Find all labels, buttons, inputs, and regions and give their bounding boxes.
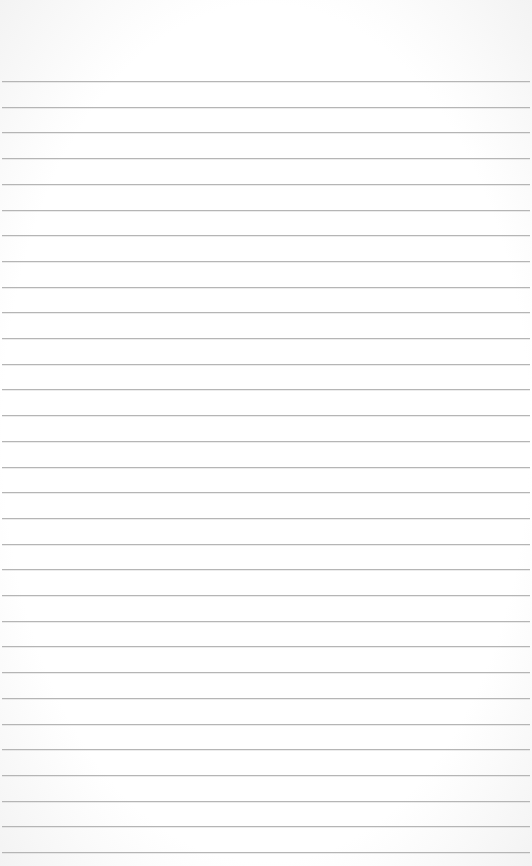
ruled-line (2, 698, 530, 699)
ruled-line (2, 801, 530, 802)
ruled-line (2, 826, 530, 827)
ruled-line (2, 544, 530, 545)
ruled-line (2, 749, 530, 750)
ruled-line (2, 158, 530, 159)
ruled-line (2, 210, 530, 211)
ruled-line (2, 364, 530, 365)
lined-paper-sheet (0, 0, 532, 866)
ruled-line (2, 107, 530, 108)
ruled-line (2, 646, 530, 647)
ruled-line (2, 132, 530, 133)
ruled-line (2, 235, 530, 236)
ruled-line (2, 595, 530, 596)
ruled-line (2, 81, 530, 82)
ruled-line (2, 621, 530, 622)
ruled-line (2, 261, 530, 262)
ruled-line (2, 389, 530, 390)
ruled-line (2, 852, 530, 853)
ruled-line (2, 724, 530, 725)
ruled-line (2, 569, 530, 570)
ruled-line (2, 415, 530, 416)
ruled-line (2, 518, 530, 519)
ruled-line (2, 775, 530, 776)
ruled-line (2, 338, 530, 339)
ruled-line (2, 492, 530, 493)
ruled-line (2, 441, 530, 442)
ruled-line (2, 672, 530, 673)
ruled-line (2, 287, 530, 288)
ruled-line (2, 467, 530, 468)
ruled-line (2, 312, 530, 313)
ruled-line (2, 184, 530, 185)
